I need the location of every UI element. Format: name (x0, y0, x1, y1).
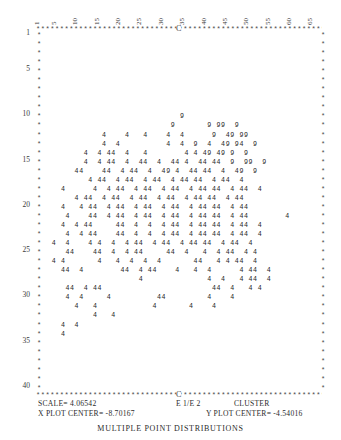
y-tick-25: 25 (23, 245, 31, 254)
x-tick-5: 5 (50, 22, 58, 26)
x-plot-center-readout: X PLOT CENTER= -8.70167 (38, 409, 135, 419)
footer-row-1: SCALE= 4.06542 E 1/E 2 CLUSTER (38, 399, 334, 409)
y-plot-center-label: Y PLOT CENTER= (206, 409, 271, 418)
scale-value: 4.06542 (70, 399, 96, 408)
plot-row: 4 4 4 4 4 4 4 44 4 4 44 4 (38, 257, 322, 266)
x-tick-55: 55 (264, 18, 272, 25)
y-tick-40: 40 (23, 381, 31, 390)
plot-row: 9 9 99 9 (38, 121, 322, 130)
bottom-center-marker: C (176, 391, 181, 398)
plot-row: 4 4 4 44 4 44 4 44 4 44 44 4 44 4 (38, 185, 322, 194)
plot-row (38, 94, 322, 103)
y-plot-center-value: -4.54016 (273, 409, 302, 418)
scale-readout: SCALE= 4.06542 (38, 399, 96, 409)
y-tick-10: 10 (23, 109, 31, 118)
y-plot-center-readout: Y PLOT CENTER= -4.54016 (206, 409, 303, 419)
y-axis-tick-labels: 1510152025303540 (0, 0, 34, 440)
plot-row: 4 4 4 44 4 4 (38, 293, 322, 302)
x-tick-20: 20 (114, 18, 122, 25)
x-tick-60: 60 (285, 18, 293, 25)
plot-row: 4 4 44 44 4 4 4 44 4 44 44 4 44 4 (38, 221, 322, 230)
plot-row (38, 103, 322, 112)
plot-row: 4 4 4 4 4 4 44 4 44 4 44 44 4 44 4 (38, 239, 322, 248)
plot-row (38, 49, 322, 58)
x-tick-1: 1 (33, 22, 41, 26)
y-tick-15: 15 (23, 155, 31, 164)
plot-row (38, 366, 322, 375)
plot-row: 4 4 4 4 4 9 49 99 (38, 131, 322, 140)
plot-row (38, 58, 322, 67)
series-label: E 1/E 2 (176, 399, 201, 409)
plot-row: 44 44 4 4 44 44 4 4 4 44 4 4 (38, 248, 322, 257)
scale-label: SCALE= (38, 399, 68, 408)
x-tick-65: 65 (306, 18, 314, 25)
plot-row (38, 76, 322, 85)
plot-row: 4 4 44 4 44 4 44 4 44 44 9 99 9 (38, 158, 322, 167)
footer-row-2: X PLOT CENTER= -8.70167 Y PLOT CENTER= -… (38, 409, 334, 419)
x-axis-tick-labels: 15101520253035404550556065 (0, 0, 341, 26)
y-tick-20: 20 (23, 200, 31, 209)
x-tick-40: 40 (200, 18, 208, 25)
plot-row (38, 40, 322, 49)
plot-row (38, 348, 322, 357)
plot-row (38, 67, 322, 76)
plot-row: 4 4 44 44 4 4 4 44 4 44 44 4 44 4 (38, 230, 322, 239)
plot-row (38, 85, 322, 94)
plot-row: 4 4 (38, 321, 322, 330)
x-tick-15: 15 (93, 18, 101, 25)
y-tick-1: 1 (26, 28, 30, 37)
plot-row: 4 4 4 4 9 4 49 94 9 (38, 140, 322, 149)
plot-row (38, 31, 322, 40)
plot-row: 4 4 44 4 44 4 44 4 44 4 44 44 4 44 (38, 203, 322, 212)
plot-row: 4 4 4 4 44 4 (38, 275, 322, 284)
footer-stats: SCALE= 4.06542 E 1/E 2 CLUSTER X PLOT CE… (38, 399, 334, 419)
plot-row: 44 44 4 44 4 49 4 44 44 4 49 9 (38, 167, 322, 176)
x-tick-10: 10 (71, 18, 79, 25)
plot-row: 44 4 44 44 4 4 4 (38, 284, 322, 293)
scatter-data-field: 9 9 9 99 9 4 4 4 4 4 9 49 99 4 4 4 4 9 4… (38, 31, 322, 391)
plot-row: 4 4 4 4 4 (38, 302, 322, 311)
x-plot-center-label: X PLOT CENTER= (38, 409, 103, 418)
plot-row: 9 (38, 112, 322, 121)
plot-row: 4 44 4 44 4 44 4 44 44 4 44 4 (38, 176, 322, 185)
x-tick-45: 45 (221, 18, 229, 25)
plot-row: 4 4 44 4 4 4 4 49 49 9 9 (38, 149, 322, 158)
y-tick-35: 35 (23, 336, 31, 345)
plot-row (38, 384, 322, 391)
y-tick-5: 5 (26, 64, 30, 73)
y-tick-30: 30 (23, 290, 31, 299)
cluster-label: CLUSTER (234, 399, 270, 409)
plot-row: 4 44 4 44 4 44 4 44 4 44 44 4 44 4 (38, 212, 322, 221)
x-plot-center-value: -8.70167 (106, 409, 135, 418)
plot-root: 15101520253035404550556065 1510152025303… (0, 0, 341, 440)
plot-row (38, 357, 322, 366)
chart-title: MULTIPLE POINT DISTRIBUTIONS (0, 424, 341, 433)
x-tick-25: 25 (135, 18, 143, 25)
x-tick-50: 50 (242, 18, 250, 25)
plot-row: 44 4 44 4 44 4 4 4 4 44 4 (38, 266, 322, 275)
plot-row: 4 4 (38, 311, 322, 320)
plot-row (38, 339, 322, 348)
plot-row: 4 (38, 330, 322, 339)
plot-row (38, 375, 322, 384)
plot-row: 4 44 4 44 4 44 4 44 4 44 44 4 44 (38, 194, 322, 203)
x-tick-30: 30 (157, 18, 165, 25)
